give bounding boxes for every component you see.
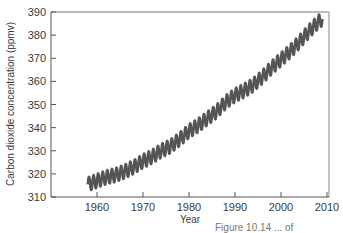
y-tick-label: 310 — [28, 191, 46, 203]
y-tick-label: 340 — [28, 122, 46, 134]
y-tick-label: 330 — [28, 145, 46, 157]
x-tick-label: 1990 — [223, 201, 247, 213]
x-tick-label: 2010 — [315, 201, 339, 213]
figure-caption: Figure 10.14 ... of — [215, 222, 293, 233]
y-axis-title: Carbon dioxide concentration (ppmv) — [5, 22, 16, 186]
x-tick-label: 2000 — [269, 201, 293, 213]
y-tick-label: 360 — [28, 75, 46, 87]
y-tick-label: 370 — [28, 52, 46, 64]
x-tick-label: 1980 — [177, 201, 201, 213]
y-tick-label: 350 — [28, 99, 46, 111]
x-axis-title: Year — [180, 214, 201, 225]
x-axis-ticks: 196019701980199020002010 — [85, 192, 339, 213]
y-tick-label: 380 — [28, 29, 46, 41]
co2-line-chart: 310320330340350360370380390 196019701980… — [0, 0, 343, 233]
y-tick-label: 390 — [28, 6, 46, 18]
x-tick-label: 1970 — [131, 201, 155, 213]
co2-series-line — [88, 15, 323, 190]
y-tick-label: 320 — [28, 168, 46, 180]
plot-frame — [51, 12, 329, 197]
x-tick-label: 1960 — [85, 201, 109, 213]
y-axis-ticks: 310320330340350360370380390 — [28, 6, 56, 203]
